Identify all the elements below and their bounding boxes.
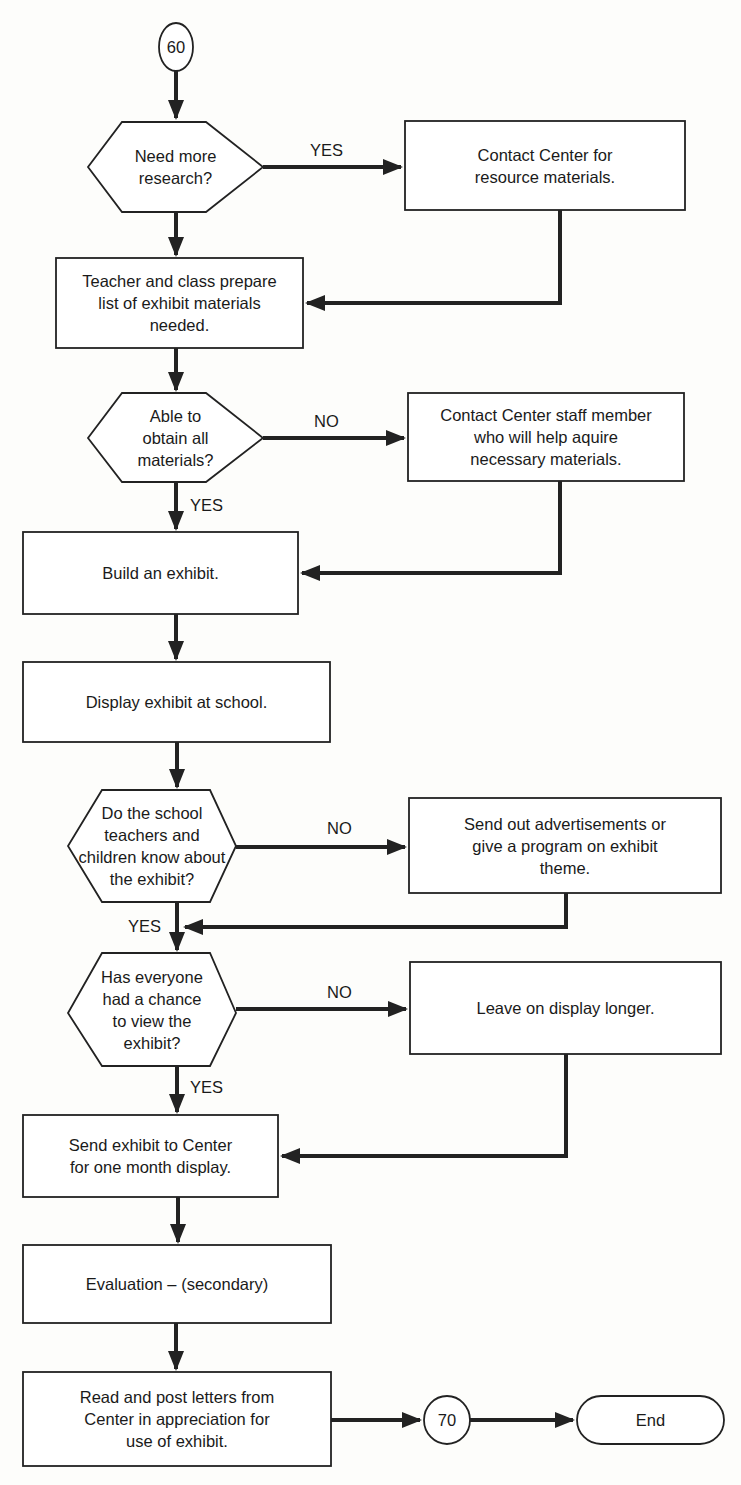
edge-p1-p2 bbox=[307, 210, 560, 303]
decision-know-about-exhibit: Do the school teachers and children know… bbox=[68, 790, 236, 902]
terminator-end: End bbox=[577, 1396, 724, 1444]
process-build-exhibit: Build an exhibit. bbox=[23, 532, 298, 614]
process-contact-staff-member: Contact Center staff member who will hel… bbox=[408, 393, 684, 481]
edge-label-d4-yes: YES bbox=[190, 1077, 223, 1097]
process-send-to-center: Send exhibit to Center for one month dis… bbox=[23, 1115, 278, 1197]
edge-label-d4-no: NO bbox=[327, 982, 352, 1002]
process-contact-center-resources: Contact Center for resource materials. bbox=[405, 121, 685, 210]
edge-p7-p8 bbox=[282, 1054, 566, 1156]
edge-p6-d4 bbox=[185, 893, 566, 927]
edge-label-d1-yes: YES bbox=[310, 140, 343, 160]
decision-obtain-all-materials: Able to obtain all materials? bbox=[88, 393, 263, 482]
edge-label-d2-yes: YES bbox=[190, 495, 223, 515]
process-evaluation: Evaluation – (secondary) bbox=[23, 1245, 331, 1323]
connector-70: 70 bbox=[424, 1396, 470, 1444]
process-send-advertisements: Send out advertisements or give a progra… bbox=[409, 798, 721, 893]
edge-label-d3-yes: YES bbox=[128, 916, 161, 936]
connector-60: 60 bbox=[159, 23, 193, 71]
process-prepare-materials-list: Teacher and class prepare list of exhibi… bbox=[56, 258, 303, 348]
edge-p3-p4 bbox=[302, 481, 560, 573]
edge-label-d2-no: NO bbox=[314, 411, 339, 431]
decision-need-more-research: Need more research? bbox=[88, 122, 263, 212]
process-display-exhibit: Display exhibit at school. bbox=[23, 662, 330, 742]
decision-everyone-viewed: Has everyone had a chance to view the ex… bbox=[68, 953, 236, 1066]
process-leave-on-display: Leave on display longer. bbox=[410, 962, 721, 1054]
process-read-post-letters: Read and post letters from Center in app… bbox=[23, 1372, 331, 1466]
edge-label-d3-no: NO bbox=[327, 818, 352, 838]
